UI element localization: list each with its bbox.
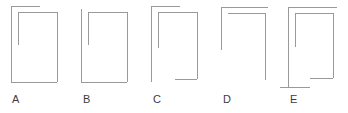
- figure-shape-a: [11, 6, 57, 82]
- option-label-c: C: [153, 93, 161, 105]
- option-label-e: E: [290, 93, 297, 105]
- figure-option-d[interactable]: D: [221, 7, 268, 105]
- figure-option-e[interactable]: E: [280, 7, 337, 105]
- option-label-b: B: [83, 93, 90, 105]
- options-group: ABCDE: [11, 6, 337, 105]
- figure-shape-b: [81, 9, 127, 82]
- figure-canvas: ABCDE: [0, 0, 348, 113]
- figure-shape-c: [151, 6, 197, 82]
- option-label-a: A: [12, 93, 20, 105]
- figure-option-a[interactable]: A: [11, 6, 57, 105]
- figure-option-c[interactable]: C: [151, 6, 197, 105]
- figure-options-panel: ABCDE: [0, 0, 348, 113]
- figure-shape-e: [280, 7, 337, 87]
- option-label-d: D: [223, 93, 231, 105]
- figure-option-b[interactable]: B: [81, 9, 127, 105]
- figure-shape-d: [221, 7, 268, 80]
